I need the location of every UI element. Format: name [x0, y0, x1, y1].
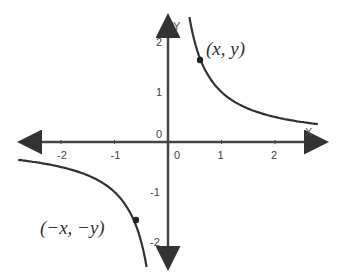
label-xy: (x, y) — [206, 38, 245, 60]
left-branch-curve — [18, 160, 146, 267]
svg-text:2: 2 — [156, 36, 162, 48]
svg-text:0: 0 — [174, 149, 180, 161]
hyperbola-plot: -2-1012 210-1-2 Y X (x, y) (−x, −y) — [0, 0, 346, 278]
svg-text:1: 1 — [156, 86, 162, 98]
svg-text:-2: -2 — [150, 236, 160, 248]
label-neg-xy: (−x, −y) — [40, 217, 105, 239]
point-neg-xy — [133, 217, 139, 223]
svg-text:-2: -2 — [57, 149, 67, 161]
x-axis-label: X — [305, 126, 313, 138]
point-xy — [197, 57, 203, 63]
svg-text:-1: -1 — [150, 186, 160, 198]
svg-text:0: 0 — [156, 128, 162, 140]
svg-text:2: 2 — [271, 149, 277, 161]
right-branch-curve — [189, 17, 317, 124]
svg-text:1: 1 — [218, 149, 224, 161]
svg-text:-1: -1 — [111, 149, 121, 161]
y-axis-label: Y — [173, 20, 181, 32]
